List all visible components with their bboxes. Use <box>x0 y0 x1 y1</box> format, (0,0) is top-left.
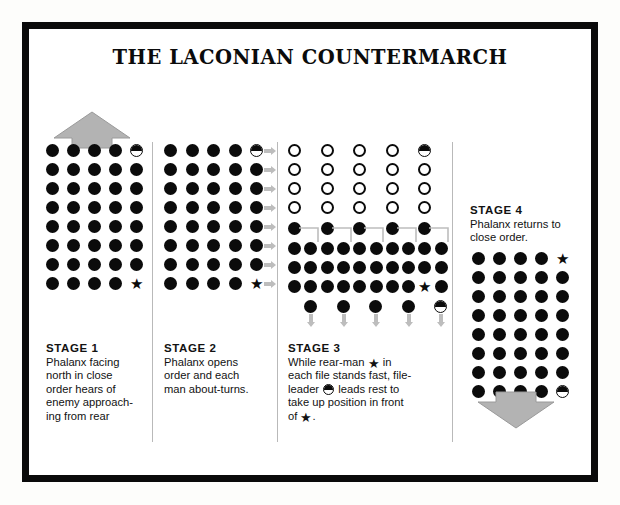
stage-2-body-line: order and each <box>164 369 274 382</box>
stage-1-hoplite <box>130 239 143 252</box>
stage-1-hoplite <box>130 201 143 214</box>
stage-1-heading: STAGE 1 <box>46 342 152 354</box>
stage-4-hoplite <box>535 252 548 265</box>
stage-4-hoplite <box>556 328 569 341</box>
stage-2-file-leader <box>250 144 263 157</box>
stage-3-dense-hoplite <box>402 280 415 293</box>
stage-4-hoplite <box>493 290 506 303</box>
stage-1-body-line: order hears of <box>46 383 152 396</box>
stage-2-hoplite <box>186 239 199 252</box>
stage-3-open-hoplite <box>386 163 399 176</box>
stage-1-hoplite <box>46 144 59 157</box>
stage-4-hoplite <box>514 366 527 379</box>
stage-1-hoplite <box>130 182 143 195</box>
stage-3-dense-hoplite <box>337 242 350 255</box>
stage-2-caption: STAGE 2 Phalanx opensorder and eachman a… <box>164 342 274 396</box>
stage-3-open-hoplite <box>321 201 334 214</box>
stage-3-move-arrow-icon <box>307 314 316 328</box>
stage-3-dense-hoplite <box>321 242 334 255</box>
stage-3-lead-hoplite <box>369 300 382 313</box>
stage-1-hoplite <box>88 277 101 290</box>
stage-2-hoplite <box>229 182 242 195</box>
stage-4-hoplite <box>556 347 569 360</box>
stage-4-hoplite <box>535 290 548 303</box>
stage-2-hoplite <box>207 220 220 233</box>
stage-4-body-line: Phalanx returns to <box>470 218 582 231</box>
stage-4-hoplite <box>493 366 506 379</box>
stage-3-dense-hoplite <box>370 280 383 293</box>
stage-4-hoplite <box>493 328 506 341</box>
stage-4-hoplite <box>472 309 485 322</box>
stage-4-hoplite <box>514 271 527 284</box>
stage-1-hoplite <box>67 201 80 214</box>
stage-1-hoplite <box>88 201 101 214</box>
stage-1-hoplite <box>130 220 143 233</box>
stage-4-panel: STAGE 4 Phalanx returns toclose order. ★ <box>466 110 582 440</box>
stage-2-heading: STAGE 2 <box>164 342 274 354</box>
stage-2-hoplite <box>207 163 220 176</box>
stage-3-open-hoplite <box>386 182 399 195</box>
stage-3-dense-hoplite <box>353 280 366 293</box>
stage-4-body-line: close order. <box>470 231 582 244</box>
south-arrow-icon <box>476 392 556 430</box>
stage-4-hoplite <box>535 347 548 360</box>
stage-1-hoplite <box>88 144 101 157</box>
stage-2-turn-arrow-icon <box>264 223 276 232</box>
stage-2-hoplite <box>229 277 242 290</box>
stage-3-open-hoplite <box>321 182 334 195</box>
stage-3-open-hoplite <box>386 144 399 157</box>
stage-1-hoplite <box>109 220 122 233</box>
stage-2-hoplite <box>186 144 199 157</box>
stage-3-dense-hoplite <box>418 261 431 274</box>
stage-3-move-arrow-icon <box>405 314 414 328</box>
stage-3-dense-hoplite <box>321 261 334 274</box>
stage-2-hoplite <box>207 277 220 290</box>
divider-2-3 <box>277 142 278 442</box>
stage-2-hoplite <box>186 201 199 214</box>
stage-1-hoplite <box>46 258 59 271</box>
stage-3-heading: STAGE 3 <box>288 342 444 354</box>
divider-1-2 <box>152 142 153 442</box>
stage-3-body-line: take up position in front <box>288 396 444 409</box>
stage-3-open-hoplite <box>353 201 366 214</box>
stage-1-file-leader <box>130 144 143 157</box>
stage-1-hoplite <box>88 239 101 252</box>
stage-4-hoplite <box>556 366 569 379</box>
stage-1-hoplite <box>88 220 101 233</box>
stage-1-rear-man: ★ <box>129 276 144 291</box>
diagram-frame: THE LACONIAN COUNTERMARCH ★ STAGE 1 Phal… <box>0 0 620 505</box>
stage-1-hoplite <box>67 144 80 157</box>
stage-1-hoplite <box>67 220 80 233</box>
rear-man-star-icon: ★ <box>300 412 312 423</box>
stage-3-dense-hoplite <box>386 242 399 255</box>
stage-2-hoplite <box>164 201 177 214</box>
stage-3-dense-hoplite <box>435 280 448 293</box>
stage-1-hoplite <box>67 258 80 271</box>
stage-1-hoplite <box>109 182 122 195</box>
stage-3-dense-hoplite <box>321 280 334 293</box>
stage-2-turn-arrow-icon <box>264 166 276 175</box>
stage-2-hoplite <box>164 182 177 195</box>
stage-3-body-line: leader leads rest to <box>288 383 444 396</box>
stage-1-hoplite <box>109 239 122 252</box>
stage-1-caption: STAGE 1 Phalanx facingnorth in closeorde… <box>46 342 152 423</box>
stage-2-turn-arrow-icon <box>264 185 276 194</box>
stage-3-dense-hoplite <box>304 242 317 255</box>
stage-2-hoplite <box>207 144 220 157</box>
stage-4-hoplite <box>535 271 548 284</box>
stage-4-hoplite <box>556 309 569 322</box>
stage-2-hoplite <box>250 239 263 252</box>
stage-2-hoplite <box>207 258 220 271</box>
stage-3-dense-hoplite <box>353 242 366 255</box>
file-leader-half-circle-icon <box>323 384 334 395</box>
stage-4-heading: STAGE 4 <box>470 204 582 216</box>
stage-1-body-line: enemy approach- <box>46 396 152 409</box>
stage-2-hoplite <box>186 220 199 233</box>
stage-3-dense-hoplite <box>386 261 399 274</box>
stage-2-hoplite <box>186 163 199 176</box>
stage-1-body: Phalanx facingnorth in closeorder hears … <box>46 356 152 423</box>
stage-1-hoplite <box>46 239 59 252</box>
stage-3-caption: STAGE 3 While rear-man ★ ineach file sta… <box>288 342 444 423</box>
stage-3-open-hoplite <box>288 163 301 176</box>
stage-3-open-hoplite <box>288 182 301 195</box>
